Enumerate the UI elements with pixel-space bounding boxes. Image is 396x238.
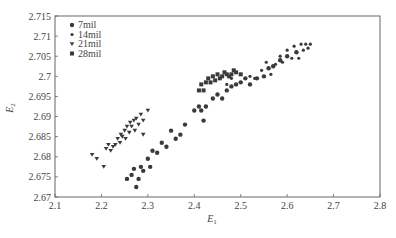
data-point xyxy=(204,104,208,108)
data-point xyxy=(297,57,300,60)
x-axis-title: E1 xyxy=(206,213,217,226)
data-point xyxy=(128,121,133,125)
data-point xyxy=(253,77,256,80)
data-point xyxy=(141,169,145,173)
data-point xyxy=(265,61,268,64)
y-tick-label: 2.69 xyxy=(34,111,52,122)
y-tick-label: 2.705 xyxy=(29,51,52,62)
data-point xyxy=(202,88,206,92)
data-point xyxy=(174,136,178,140)
data-point xyxy=(199,82,203,86)
data-point xyxy=(206,76,210,80)
data-point xyxy=(169,128,173,132)
data-point xyxy=(125,125,130,129)
data-point xyxy=(260,69,263,72)
data-point xyxy=(136,123,141,127)
data-point xyxy=(248,75,251,78)
legend-item-28mil: 28mil xyxy=(70,48,102,59)
data-point xyxy=(215,92,219,96)
data-point xyxy=(295,51,298,54)
data-point xyxy=(106,143,111,147)
data-point xyxy=(220,74,224,78)
data-point xyxy=(155,151,159,155)
legend-marker-icon xyxy=(70,52,74,56)
legend-marker-icon xyxy=(70,33,73,36)
x-tick-label: 2.7 xyxy=(327,200,340,211)
data-point xyxy=(115,137,120,141)
data-point xyxy=(239,81,242,84)
data-point xyxy=(133,129,138,133)
data-point xyxy=(136,177,140,181)
data-point xyxy=(134,185,138,189)
scatter-chart: 2.12.22.32.42.52.62.72.8 2.672.6752.682.… xyxy=(0,0,396,238)
data-point xyxy=(290,57,293,60)
data-point xyxy=(306,47,309,50)
x-tick-label: 2.8 xyxy=(374,200,387,211)
data-point xyxy=(141,119,146,123)
data-point xyxy=(211,74,215,78)
y-tick-label: 2.695 xyxy=(29,91,52,102)
y-tick-label: 2.685 xyxy=(29,131,52,142)
data-point xyxy=(125,177,129,181)
plot-border xyxy=(55,16,380,197)
data-point xyxy=(90,153,95,157)
x-tick-label: 2.2 xyxy=(95,200,108,211)
x-tick-label: 2.4 xyxy=(188,200,201,211)
y-tick-label: 2.67 xyxy=(34,192,52,203)
data-point xyxy=(211,96,215,100)
data-point xyxy=(248,82,252,86)
data-point xyxy=(279,55,282,58)
data-point xyxy=(239,72,243,76)
data-point xyxy=(293,45,296,48)
x-tick-label: 2.5 xyxy=(234,200,247,211)
data-point xyxy=(243,76,247,80)
data-point xyxy=(164,145,168,149)
legend-marker-icon xyxy=(70,42,75,46)
data-point xyxy=(234,82,238,86)
data-point xyxy=(146,109,151,113)
data-point xyxy=(118,141,123,145)
data-point xyxy=(122,129,127,133)
y-axis: 2.672.6752.682.6852.692.6952.72.7052.712… xyxy=(29,11,59,203)
data-point xyxy=(209,80,213,84)
y-axis-title: E2 xyxy=(4,103,17,114)
x-tick-label: 2.3 xyxy=(142,200,155,211)
data-point xyxy=(178,132,182,136)
data-point xyxy=(204,80,208,84)
data-point xyxy=(266,66,270,70)
plot-frame xyxy=(55,16,380,197)
y-tick-label: 2.71 xyxy=(34,31,52,42)
data-point xyxy=(139,165,143,169)
data-point xyxy=(94,157,99,161)
legend-marker-icon xyxy=(70,23,74,27)
data-point xyxy=(225,88,229,92)
data-point xyxy=(148,165,152,169)
data-point xyxy=(108,149,113,153)
x-tick-label: 2.6 xyxy=(281,200,294,211)
data-point xyxy=(150,149,154,153)
data-point xyxy=(199,108,203,112)
data-point xyxy=(192,108,196,112)
data-points xyxy=(90,43,312,190)
y-tick-label: 2.715 xyxy=(29,11,52,22)
data-point xyxy=(229,84,233,88)
data-point xyxy=(220,96,224,100)
series-28mil xyxy=(197,68,243,92)
data-point xyxy=(302,49,305,52)
data-point xyxy=(229,72,233,76)
data-point xyxy=(281,61,284,64)
data-point xyxy=(197,104,201,108)
data-point xyxy=(183,122,187,126)
data-point xyxy=(309,43,312,46)
data-point xyxy=(234,70,238,74)
series-21mil xyxy=(90,109,150,169)
data-point xyxy=(201,118,205,122)
data-point xyxy=(123,137,128,141)
data-point xyxy=(101,165,106,169)
data-point xyxy=(269,73,272,76)
y-tick-label: 2.68 xyxy=(34,151,52,162)
data-point xyxy=(146,157,150,161)
data-point xyxy=(129,125,134,129)
data-point xyxy=(132,167,136,171)
data-point xyxy=(225,83,228,86)
